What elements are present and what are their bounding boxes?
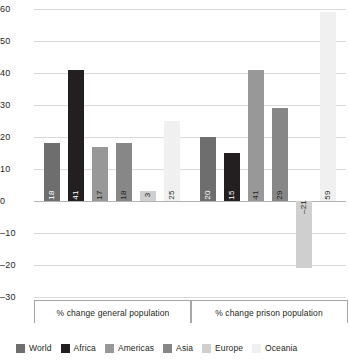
legend-swatch-icon [163, 344, 172, 353]
group-label: % change prison population [191, 308, 347, 318]
bar-value-label: 29 [276, 190, 284, 199]
bar: 18 [116, 143, 131, 201]
bar-rect [320, 12, 335, 201]
legend-item-asia[interactable]: Asia [163, 343, 193, 353]
y-axis-tick: 0 [0, 196, 28, 206]
plot-area: 1841171832520154129–2159 [34, 9, 346, 297]
bar-value-label: 15 [228, 190, 236, 199]
group-axis: % change general population% change pris… [34, 300, 346, 326]
legend-item-africa[interactable]: Africa [61, 343, 96, 353]
bar: 41 [248, 70, 263, 201]
bar-rect [248, 70, 263, 201]
bars-layer: 1841171832520154129–2159 [34, 9, 346, 297]
legend-item-world[interactable]: World [16, 343, 52, 353]
bar: 29 [272, 108, 287, 201]
bar: 20 [200, 137, 215, 201]
group-label-box: % change prison population [190, 300, 348, 323]
bar-value-label: 41 [252, 190, 260, 199]
bar: 3 [140, 191, 155, 201]
legend-swatch-icon [16, 344, 25, 353]
chart-legend: WorldAfricaAmericasAsiaEuropeOceania [16, 343, 297, 353]
bar: 17 [92, 147, 107, 201]
bar-rect [272, 108, 287, 201]
bar-value-label: 25 [168, 190, 176, 199]
bar-value-label: 41 [72, 190, 80, 199]
bar: 18 [44, 143, 59, 201]
group-label-box: % change general population [34, 300, 192, 323]
group-label: % change general population [35, 308, 191, 318]
legend-label: Americas [118, 343, 154, 353]
legend-swatch-icon [105, 344, 114, 353]
bar-value-label: 3 [144, 193, 152, 198]
y-axis-tick: –20 [0, 260, 28, 270]
bar: –21 [296, 201, 311, 268]
y-axis-tick: –30 [0, 292, 28, 302]
bar: 15 [224, 153, 239, 201]
legend-label: World [29, 343, 52, 353]
bar: 59 [320, 12, 335, 201]
legend-item-oceania[interactable]: Oceania [252, 343, 297, 353]
y-axis-tick: –10 [0, 228, 28, 238]
y-axis-tick: 50 [0, 36, 28, 46]
legend-label: Asia [176, 343, 193, 353]
legend-swatch-icon [61, 344, 70, 353]
legend-item-europe[interactable]: Europe [202, 343, 243, 353]
y-axis-tick: 30 [0, 100, 28, 110]
bar-value-label: 18 [48, 190, 56, 199]
y-axis-tick: 10 [0, 164, 28, 174]
legend-swatch-icon [252, 344, 261, 353]
bar-chart: 1841171832520154129–2159 6050403020100–1… [0, 0, 349, 361]
legend-label: Africa [74, 343, 96, 353]
bar-value-label: 20 [204, 190, 212, 199]
y-axis-tick: 60 [0, 4, 28, 14]
bar-value-label: 18 [120, 190, 128, 199]
y-axis-tick: 40 [0, 68, 28, 78]
y-axis-tick: 20 [0, 132, 28, 142]
bar-value-label: –21 [300, 200, 308, 214]
gridline--30 [34, 297, 346, 298]
legend-label: Oceania [265, 343, 297, 353]
bar-rect [164, 121, 179, 201]
legend-label: Europe [215, 343, 243, 353]
bar: 25 [164, 121, 179, 201]
bar-value-label: 17 [96, 190, 104, 199]
bar-value-label: 59 [324, 190, 332, 199]
legend-item-americas[interactable]: Americas [105, 343, 154, 353]
legend-swatch-icon [202, 344, 211, 353]
bar-rect [68, 70, 83, 201]
bar: 41 [68, 70, 83, 201]
